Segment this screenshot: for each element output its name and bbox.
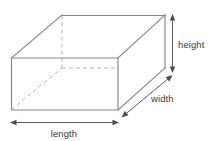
height-label: height xyxy=(178,39,205,50)
length-label: length xyxy=(51,128,77,139)
prism-front-face xyxy=(11,58,118,110)
prism-diagram-container: height width length xyxy=(0,0,212,141)
rectangular-prism-figure: height width length xyxy=(0,0,212,141)
width-label: width xyxy=(150,93,174,104)
